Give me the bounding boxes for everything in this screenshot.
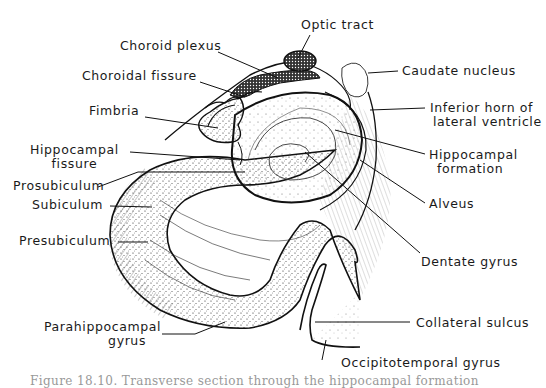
label-hippocampal-fissure-line2: fissure <box>30 157 119 171</box>
fimbria-shape <box>199 98 244 143</box>
label-prosubiculum: Prosubiculum <box>13 179 104 193</box>
label-hippocampal-fissure: Hippocampal fissure <box>30 143 119 171</box>
label-alveus: Alveus <box>429 197 474 211</box>
label-optic-tract: Optic tract <box>301 18 374 32</box>
label-caudate-nucleus: Caudate nucleus <box>402 64 516 78</box>
label-choroid-plexus: Choroid plexus <box>120 39 221 53</box>
label-subiculum: Subiculum <box>32 198 103 212</box>
label-inferior-horn: Inferior horn of lateral ventricle <box>430 101 542 129</box>
label-presubiculum: Presubiculum <box>19 234 110 248</box>
label-occipitotemporal-gyrus: Occipitotemporal gyrus <box>341 356 501 370</box>
label-parahippocampal-line1: Parahippocampal <box>44 320 150 334</box>
figure-caption: Figure 18.10. Transverse section through… <box>30 374 479 388</box>
label-hippocampal-fissure-line1: Hippocampal <box>30 143 119 157</box>
label-choroidal-fissure: Choroidal fissure <box>82 69 197 83</box>
label-fimbria: Fimbria <box>89 104 139 118</box>
label-hippocampal-formation-line1: Hippocampal <box>429 148 518 162</box>
label-parahippocampal-line2: gyrus <box>44 334 150 348</box>
label-dentate-gyrus: Dentate gyrus <box>421 255 518 269</box>
label-inferior-horn-line2: lateral ventricle <box>430 115 542 129</box>
label-hippocampal-formation: Hippocampal formation <box>429 148 518 176</box>
label-parahippocampal-gyrus: Parahippocampal gyrus <box>44 320 150 348</box>
label-inferior-horn-line1: Inferior horn of <box>430 101 542 115</box>
label-collateral-sulcus: Collateral sulcus <box>416 316 529 330</box>
label-hippocampal-formation-line2: formation <box>429 162 518 176</box>
